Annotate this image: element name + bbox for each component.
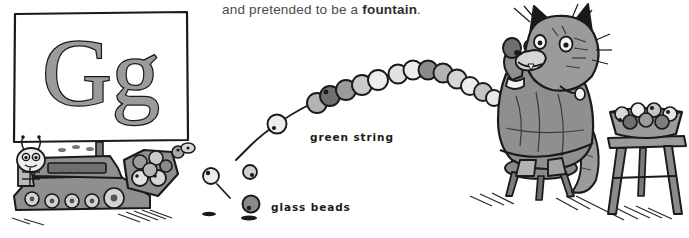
illustration-page: Gg and pretended to be a fountain. (0, 0, 689, 238)
cat-scene (470, 4, 686, 220)
bulldozer-exhaust (96, 142, 103, 156)
cat-collar-bead (575, 88, 585, 100)
bead-arc-beads (268, 61, 503, 134)
loose-beads (172, 143, 260, 220)
exhaust-smoke (58, 145, 94, 152)
label-green-string: green string (310, 131, 394, 143)
bowl-of-beads (610, 103, 682, 138)
bulldozer (12, 135, 178, 225)
bead-arc (236, 61, 502, 161)
tall-stool (608, 136, 686, 214)
label-glass-beads: glass beads (271, 201, 351, 213)
bulldozer-panel (48, 163, 106, 173)
ground-scribble-left (12, 210, 172, 225)
